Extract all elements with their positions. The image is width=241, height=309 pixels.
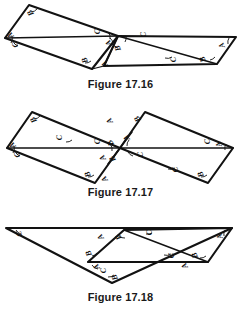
vertex-label: A bbox=[97, 153, 108, 163]
vertex-label: B bbox=[105, 138, 116, 149]
figure-17-18: C B A B A C A B C C A B Figure 17.18 bbox=[0, 205, 241, 309]
figure-17-17-drawing: A B C C B C B B A A B A A C B C C A bbox=[0, 98, 241, 186]
vertex-label: A bbox=[99, 59, 110, 70]
angle-arc bbox=[228, 38, 229, 44]
figure-plate: A B C C B A B A B C A C Figure 17.16 bbox=[0, 0, 241, 309]
vertex-label: C bbox=[138, 31, 148, 38]
vertex-label: B bbox=[107, 154, 118, 165]
vertex-label: C bbox=[135, 151, 145, 158]
figure-caption: Figure 17.17 bbox=[0, 186, 241, 198]
vertex-label: C bbox=[14, 230, 24, 237]
figure-caption: Figure 17.16 bbox=[0, 78, 241, 90]
figure-17-17: A B C C B C B B A A B A A C B C C A Figu… bbox=[0, 98, 241, 193]
vertex-label: B bbox=[197, 55, 208, 65]
angle-arc bbox=[66, 140, 72, 142]
vertex-label: A bbox=[95, 232, 106, 243]
vertex-label: C bbox=[54, 134, 64, 141]
figure-17-16-drawing: A B C C B A B A B C A C bbox=[0, 0, 241, 78]
vertex-label: C bbox=[168, 56, 178, 63]
angle-arc bbox=[200, 256, 206, 258]
vertex-label: A bbox=[216, 41, 227, 51]
vertex-label: A bbox=[104, 116, 115, 126]
left-parallelogram-diagonal bbox=[5, 36, 118, 38]
figure-17-18-drawing: C B A B A C A B C C A B bbox=[0, 205, 241, 291]
vertex-label: C bbox=[170, 166, 180, 173]
vertex-label: C bbox=[166, 252, 176, 259]
vertex-label: C bbox=[202, 138, 212, 145]
figure-17-16: A B C C B A B A B C A C Figure 17.16 bbox=[0, 0, 241, 95]
vertex-label: B bbox=[79, 56, 90, 66]
angle-arc bbox=[210, 57, 215, 60]
figure-caption: Figure 17.18 bbox=[0, 291, 241, 303]
inner-parallelogram-outline bbox=[88, 228, 232, 262]
vertex-label: B bbox=[195, 170, 206, 180]
vertex-label: B bbox=[82, 170, 93, 180]
